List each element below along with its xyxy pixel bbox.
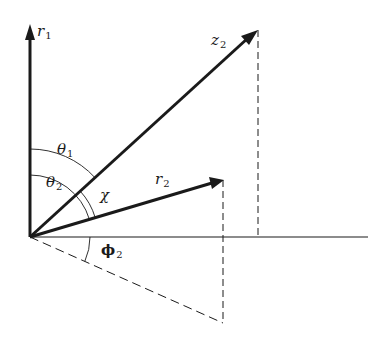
chi-label-base: χ (100, 186, 109, 204)
phi2-label-base: ϕ (101, 241, 115, 259)
r1-arrowhead-icon (25, 24, 35, 40)
theta1-label-base: θ (57, 140, 66, 158)
phi-base-dashed (30, 237, 223, 323)
z2-label: z2 (211, 33, 226, 50)
theta2-label-sub: 2 (56, 181, 62, 192)
r1-label-base: r (37, 22, 44, 40)
r2-label-sub: 2 (163, 178, 169, 189)
r2-label-base: r (155, 170, 162, 188)
phi2-label: ϕ2 (101, 243, 123, 260)
diagram-svg (0, 0, 387, 343)
r1-label: r1 (37, 24, 52, 41)
chi-label: χ (100, 188, 109, 203)
z2-vector (30, 38, 248, 237)
theta2-label-base: θ (46, 173, 55, 191)
theta1-label: θ1 (57, 142, 73, 159)
z2-label-sub: 2 (220, 39, 226, 50)
phi2-arc (85, 237, 90, 261)
r1-label-sub: 1 (45, 30, 51, 41)
r2-arrowhead-icon (209, 177, 224, 189)
theta1-label-sub: 1 (67, 148, 73, 159)
r2-label: r2 (155, 172, 170, 189)
z2-label-base: z (211, 31, 219, 49)
phi2-label-sub: 2 (116, 249, 122, 260)
theta2-label: θ2 (46, 175, 62, 192)
vector-diagram: r1 z2 r2 θ1 θ2 χ ϕ2 (0, 0, 387, 343)
